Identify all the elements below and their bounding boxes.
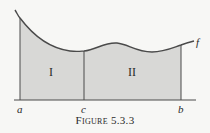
shaded-region [20, 18, 181, 100]
region-label-2: II [128, 65, 136, 79]
function-label: f [196, 36, 201, 48]
figure-caption: Figure 5.3.3 [0, 114, 210, 126]
region-label-1: I [49, 65, 53, 79]
